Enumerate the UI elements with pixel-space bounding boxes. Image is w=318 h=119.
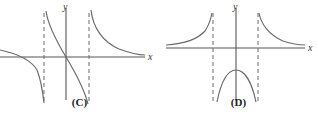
figure-root: x y (C) x y (D) [0, 0, 318, 119]
curve-right-branch-c [91, 10, 145, 55]
curve-right-outer-branch-d [259, 13, 305, 45]
y-axis-label-d: y [232, 1, 238, 12]
x-axis-label-d: x [307, 42, 313, 53]
graph-panel-c: x y (C) [0, 0, 159, 119]
panel-caption-d: (D) [159, 96, 318, 108]
y-axis-label-c: y [62, 1, 68, 12]
plot-svg-d: x y [159, 0, 318, 105]
plot-svg-c: x y [0, 0, 159, 105]
curve-left-outer-branch-d [166, 13, 212, 45]
panel-caption-c: (C) [0, 96, 159, 108]
x-axis-label-c: x [147, 51, 153, 62]
graph-panel-d: x y (D) [159, 0, 318, 119]
